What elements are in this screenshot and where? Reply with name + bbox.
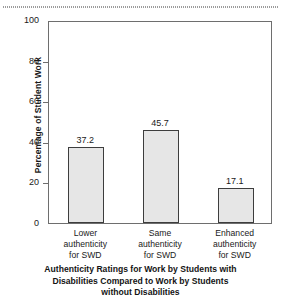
bar xyxy=(218,188,254,223)
x-axis-category-label-line: for SWD xyxy=(123,250,197,261)
y-axis-tick-label: 80 xyxy=(29,56,39,66)
x-axis-category-label-line: authenticity xyxy=(198,239,272,250)
x-axis-category-label: Sameauthenticityfor SWD xyxy=(123,228,197,262)
y-axis-tick-label: 60 xyxy=(29,96,39,106)
figure-caption-line: Disabilities Compared to Work by Student… xyxy=(16,276,265,288)
page-edge-rule xyxy=(3,6,279,8)
bar-value-label: 37.2 xyxy=(60,135,110,145)
x-axis-category-label-line: authenticity xyxy=(48,239,122,250)
figure-caption-line: without Disabilities xyxy=(16,287,265,299)
x-axis-category-label: Lowerauthenticityfor SWD xyxy=(48,228,122,262)
x-axis-category-label-line: Enhanced xyxy=(198,228,272,239)
x-axis-category-label-line: Lower xyxy=(48,228,122,239)
x-axis-category-label-line: Same xyxy=(123,228,197,239)
y-axis-tick-label: 100 xyxy=(24,15,39,25)
x-axis-category-label-line: for SWD xyxy=(48,250,122,261)
bar xyxy=(68,147,104,223)
bar-value-label: 45.7 xyxy=(135,118,185,128)
bar-value-label: 17.1 xyxy=(210,176,260,186)
y-axis-tick-label: 0 xyxy=(34,218,39,228)
figure-caption-line: Authenticity Ratings for Work by Student… xyxy=(16,264,265,276)
y-axis-tick-label: 40 xyxy=(29,137,39,147)
x-axis-category-label-line: for SWD xyxy=(198,250,272,261)
figure-bar-chart: Percentage of Student Work 020406080100 … xyxy=(0,0,281,305)
y-axis-tick-label: 20 xyxy=(29,177,39,187)
figure-caption: Authenticity Ratings for Work by Student… xyxy=(16,264,265,299)
bar xyxy=(143,130,179,223)
x-axis-category-label-line: authenticity xyxy=(123,239,197,250)
x-axis-category-label: Enhancedauthenticityfor SWD xyxy=(198,228,272,262)
